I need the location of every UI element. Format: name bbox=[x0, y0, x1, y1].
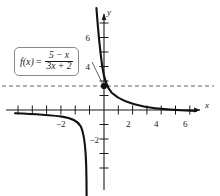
graph-canvas: −2 2 4 6 6 4 −2 x y bbox=[0, 0, 220, 196]
x-axis-label: x bbox=[204, 100, 209, 110]
y-tick-label-6: 6 bbox=[86, 33, 91, 43]
curve-point-marker bbox=[101, 83, 107, 89]
x-tick-label-2: 2 bbox=[126, 119, 131, 129]
equals-sign: = bbox=[36, 56, 42, 67]
function-formula-callout: f(x) = 5 − x 3x + 2 bbox=[14, 47, 79, 76]
y-tick-label-4: 4 bbox=[86, 62, 91, 72]
function-graph-figure: −2 2 4 6 6 4 −2 x y f(x) = 5 − x 3x + 2 bbox=[0, 0, 220, 196]
y-axis-label: y bbox=[106, 7, 111, 17]
fraction: 5 − x 3x + 2 bbox=[45, 51, 74, 72]
x-tick-label-6: 6 bbox=[183, 119, 188, 129]
fraction-numerator: 5 − x bbox=[47, 51, 71, 61]
fraction-denominator: 3x + 2 bbox=[45, 61, 74, 72]
curve-left-branch bbox=[15, 113, 87, 196]
x-tick-label-4: 4 bbox=[154, 119, 159, 129]
function-name-label: f(x) bbox=[20, 56, 34, 67]
curve-right-branch bbox=[96, 8, 196, 111]
x-tick-label-neg2: −2 bbox=[56, 119, 66, 129]
y-tick-label-neg2: −2 bbox=[89, 135, 99, 145]
